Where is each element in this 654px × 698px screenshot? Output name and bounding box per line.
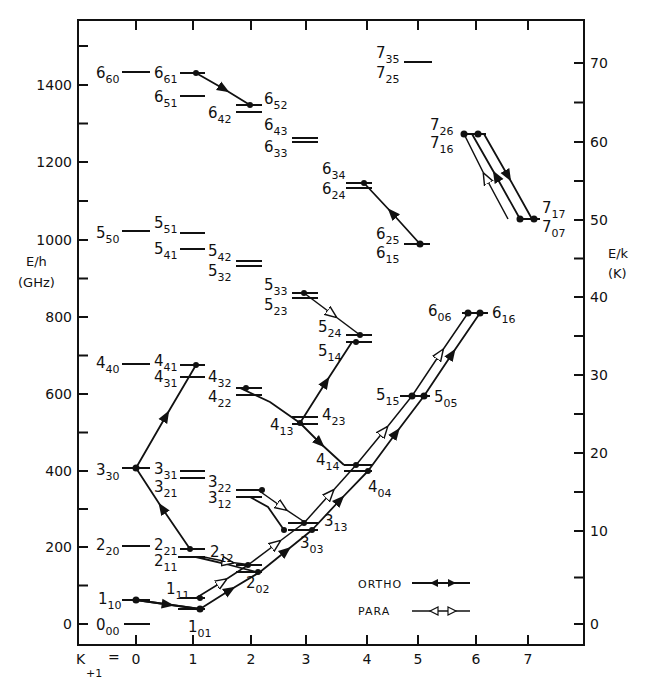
level-label-5-23: 523 [264,296,288,318]
energy-level-diagram: 0200400600800100012001400 01020304050607… [0,0,654,698]
legend: ORTHO PARA [358,578,470,618]
right-tick-label: 0 [590,616,599,632]
level-label-0-00: 000 [96,616,120,638]
right-axis-label: E/k [608,246,629,261]
level-label-5-15: 515 [376,386,400,408]
level-label-7-25: 725 [376,64,400,86]
level-label-5-41: 541 [154,240,178,262]
para-transitions [196,134,520,598]
x-tick-label: 1 [189,651,198,667]
right-tick-label: 10 [590,523,608,539]
level-label-5-51: 551 [154,214,178,236]
right-tick-label: 60 [590,134,608,150]
left-tick-label: 1000 [36,232,72,248]
right-tick-label: 20 [590,445,608,461]
left-tick-label: 800 [45,309,72,325]
level-label-6-52: 652 [264,90,288,112]
level-label-6-60: 660 [96,64,120,86]
level-label-4-40: 440 [96,354,120,376]
level-label-4-22: 422 [208,388,232,410]
level-label-6-61: 661 [154,64,178,86]
level-label-6-24: 624 [322,180,346,202]
left-tick-label: 1400 [36,77,72,93]
level-label-5-32: 532 [208,262,232,284]
x-axis-label: K [76,651,86,667]
left-axis-unit: (GHz) [18,275,55,290]
x-tick-label: 6 [472,651,481,667]
x-axis-eq: = [108,649,120,665]
right-tick-label: 70 [590,55,608,71]
level-label-4-04: 404 [368,478,392,500]
legend-ortho-label: ORTHO [358,578,402,591]
left-tick-label: 600 [45,386,72,402]
level-label-6-16: 616 [492,304,516,326]
x-axis-ticks: 01234567 [132,20,533,667]
left-tick-label: 1200 [36,154,72,170]
level-label-5-50: 550 [96,224,120,246]
left-axis-label: E/h [26,254,47,269]
x-tick-label: 3 [302,651,311,667]
right-axis-ticks: 010203040506070 [574,55,608,632]
left-axis-ticks: 0200400600800100012001400 [36,46,88,632]
level-label-6-06: 606 [428,302,452,324]
x-tick-label: 5 [414,651,423,667]
level-label-1-10: 110 [98,590,122,612]
x-tick-label: 7 [524,651,533,667]
right-tick-label: 30 [590,367,608,383]
level-label-7-35: 735 [376,44,400,66]
left-tick-label: 400 [45,463,72,479]
level-label-4-23: 423 [322,406,346,428]
level-label-6-33: 633 [264,138,288,160]
x-tick-label: 4 [363,651,372,667]
level-label-6-43: 643 [264,116,288,138]
left-tick-label: 200 [45,539,72,555]
level-label-1-01: 101 [188,618,212,640]
level-label-2-20: 220 [96,536,120,558]
level-label-6-42: 642 [208,104,232,126]
level-label-6-34: 634 [322,160,346,182]
level-label-3-30: 330 [96,461,120,483]
left-tick-label: 0 [63,616,72,632]
right-tick-label: 40 [590,289,608,305]
x-tick-label: 0 [132,651,141,667]
level-label-3-13: 313 [324,512,348,534]
level-label-1-11: 111 [166,580,190,602]
level-label-5-33: 533 [264,276,288,298]
x-tick-label: 2 [247,651,256,667]
level-label-6-15: 615 [376,244,400,266]
right-axis-unit: (K) [608,266,627,281]
level-labels: 0001101111012202212112122023303313213223… [96,44,566,640]
level-label-6-51: 651 [154,88,178,110]
level-label-4-32: 432 [208,368,232,390]
legend-para-label: PARA [358,605,390,618]
level-label-5-05: 505 [434,388,458,410]
right-tick-label: 50 [590,212,608,228]
level-label-4-14: 414 [316,451,340,473]
level-label-5-42: 542 [208,242,232,264]
level-label-5-24: 524 [318,318,342,340]
level-label-7-07: 707 [542,218,566,240]
level-label-5-14: 514 [318,342,342,364]
x-axis-label-sub: +1 [86,667,102,680]
level-label-2-02: 202 [246,574,270,596]
level-label-4-13: 413 [270,416,294,438]
level-label-3-03: 303 [300,534,324,556]
